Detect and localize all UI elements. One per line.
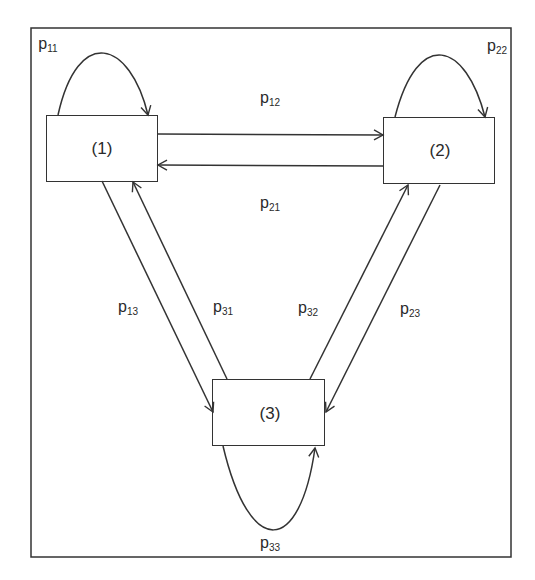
diagram-canvas bbox=[0, 0, 535, 580]
self-loop-2-arrow bbox=[395, 55, 485, 117]
label-p31: p31 bbox=[213, 298, 233, 317]
arrow-3-to-2 bbox=[310, 185, 408, 379]
state-label-3: (3) bbox=[260, 404, 281, 424]
label-p23: p23 bbox=[400, 300, 420, 319]
label-p13: p13 bbox=[118, 298, 138, 317]
self-loop-3-arrow bbox=[223, 446, 315, 530]
label-p32: p32 bbox=[298, 299, 318, 318]
arrow-3-to-1 bbox=[133, 182, 227, 379]
label-p21: p21 bbox=[260, 194, 280, 213]
label-p22: p22 bbox=[487, 37, 507, 56]
label-p11: p11 bbox=[38, 35, 57, 54]
arrow-1-to-3 bbox=[102, 181, 213, 412]
state-label-1: (1) bbox=[92, 139, 113, 159]
state-label-2: (2) bbox=[430, 141, 451, 161]
arrow-2-to-1 bbox=[158, 165, 383, 166]
self-loop-1-arrow bbox=[58, 53, 148, 115]
arrow-2-to-3 bbox=[326, 185, 440, 412]
label-p33: p33 bbox=[260, 534, 280, 553]
label-p12: p12 bbox=[260, 89, 280, 108]
arrow-1-to-2 bbox=[158, 134, 383, 135]
